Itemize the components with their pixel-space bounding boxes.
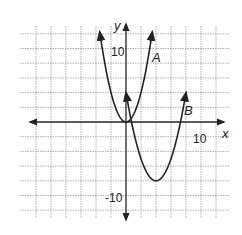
coordinate-plane: y x 10 10 -10 A B [0, 0, 242, 235]
x-tick-label-10: 10 [193, 132, 207, 146]
y-tick-label-neg10: -10 [105, 191, 123, 205]
curve-b-label: B [184, 103, 193, 118]
y-axis-label: y [113, 18, 122, 33]
y-tick-label-10: 10 [111, 45, 125, 59]
x-axis-label: x [221, 126, 229, 141]
curve-a-label: A [151, 50, 161, 65]
